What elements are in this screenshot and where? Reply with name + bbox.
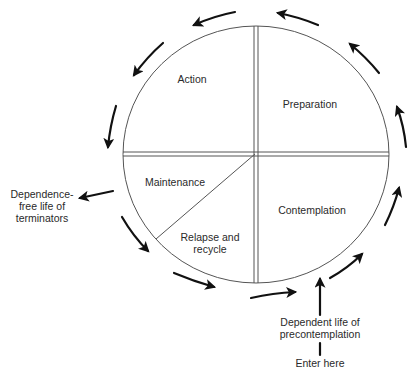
exit-label-line3: terminators [16,212,69,224]
stage-preparation: Preparation [283,98,337,110]
entry-label-line1: Dependent life of [280,316,359,328]
flow-arrow-icon [194,12,235,25]
cycle-flow-arrows [108,12,406,298]
stage-action: Action [177,73,206,85]
flow-arrow-icon [108,106,116,147]
exit-arrow-icon [80,191,113,198]
stage-contemplation: Contemplation [278,204,346,216]
stage-relapse-line2: recycle [193,243,226,255]
flow-arrow-icon [174,273,214,287]
stage-maintenance: Maintenance [145,176,205,188]
flow-arrow-icon [397,107,406,147]
flow-arrow-icon [251,292,295,298]
entry-label-line2: precontemplation [280,328,361,340]
diagonal-divider [156,154,255,239]
flow-arrow-icon [278,13,318,25]
entry-label-line3: Enter here [295,357,344,369]
cycle-circle [123,26,389,283]
flow-arrow-icon [385,188,399,225]
flow-arrow-icon [122,217,148,251]
exit-label-line1: Dependence- [10,188,74,200]
stages-of-change-diagram: Action Preparation Maintenance Contempla… [0,0,411,375]
stage-relapse-line1: Relapse and [181,231,240,243]
exit-label-line2: free life of [19,200,65,212]
flow-arrow-icon [134,43,163,75]
